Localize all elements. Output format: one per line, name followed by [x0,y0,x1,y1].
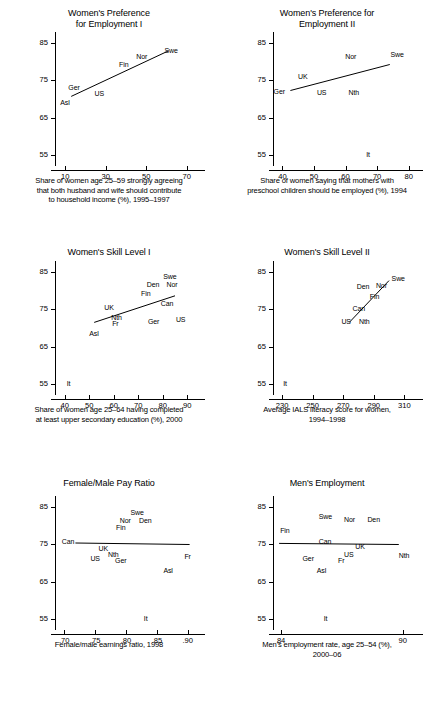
data-point-label: US [341,318,351,326]
data-point-label: Ger [274,88,285,96]
x-axis-label-line1: Men's employment rate, age 25–54 (%), [262,640,391,649]
data-point-label: Can [161,300,174,308]
data-point-label: It [144,615,148,623]
data-point-label: US [90,555,100,563]
data-point-label: Ger [303,555,314,563]
data-point-label: Fin [370,293,379,301]
chart-panel-2: Women's Skill Level IWomen's employment … [0,233,218,466]
data-point-label: UK [104,304,114,312]
data-point-label: Nor [344,516,355,524]
data-point-label: Fin [119,61,128,69]
x-axis-label: Men's employment rate, age 25–54 (%),200… [218,640,436,659]
data-point-label: Nor [167,281,178,289]
x-axis-label: Share of women saying that mothers withp… [218,176,436,195]
data-point-label: Nor [345,53,356,61]
data-point-label: Can [319,538,332,546]
data-point-label: Ger [68,84,79,92]
data-point-label: US [317,89,327,97]
x-axis-label-line1: Share of women saying that mothers with [260,176,393,185]
fit-line [218,233,436,411]
x-axis-label-line1: Female/male earnings ratio, 1998 [55,640,163,649]
data-point-label: Den [139,517,152,525]
chart-panel-1: Women's Preference forEmployment IIWomen… [218,0,436,233]
data-point-label: US [344,551,354,559]
chart-panel-3: Women's Skill Level IIWomen's employment… [218,233,436,466]
data-point-label: It [366,151,370,159]
data-point-label: Fin [280,527,289,535]
data-point-label: It [67,380,71,388]
data-point-label: Nth [359,318,370,326]
data-point-label: Asl [163,567,172,575]
data-point-label: UK [99,545,109,553]
x-axis-label-line2: 2000–06 [313,650,342,659]
fit-line [218,0,436,182]
x-axis-label: Female/male earnings ratio, 1998 [0,640,218,650]
x-axis-label-line2: 1994–1998 [309,415,346,424]
x-axis-label-line1: Share of women age 25–59 strongly agreei… [35,176,182,185]
data-point-label: It [283,380,287,388]
x-axis-label-line2: at least upper secondary education (%), … [36,415,183,424]
data-point-label: Asl [60,99,69,107]
data-point-label: Asl [89,330,98,338]
data-point-label: Fr [184,553,190,561]
data-point-label: Can [62,538,75,546]
x-axis-label-line2: that both husband and wife should contri… [37,186,182,195]
data-point-label: Nor [120,517,131,525]
chart-panel-5: Men's EmploymentWomen's employment rate,… [218,466,436,702]
x-axis-label: Share of women age 25–59 strongly agreei… [0,176,218,205]
data-point-label: Swe [163,273,176,281]
data-point-label: Fr [112,320,118,328]
data-point-label: Fin [141,290,150,298]
data-point-label: UK [298,73,308,81]
data-point-label: Asl [317,567,326,575]
x-axis-label: Share of women age 25–64 having complete… [0,405,218,424]
figure-panel-grid: Women's Preferencefor Employment IWomen'… [0,0,436,702]
data-point-label: Swe [392,275,405,283]
data-point-label: Can [353,305,366,313]
data-point-label: Den [367,516,380,524]
data-point-label: UK [355,543,365,551]
x-axis-label-line1: Share of women age 25–64 having complete… [35,405,184,414]
data-point-label: Nor [136,53,147,61]
data-point-label: It [324,615,328,623]
data-point-label: Swe [319,513,332,521]
fit-line [0,0,218,182]
x-axis-label-line1: Average IALS literacy score for women, [263,405,391,414]
data-point-label: Swe [391,51,404,59]
data-point-label: Nth [399,552,410,560]
data-point-label: US [95,90,105,98]
data-point-label: US [176,316,186,324]
data-point-label: Fin [116,524,125,532]
data-point-label: Nor [376,282,387,290]
data-point-label: Ger [115,557,126,565]
data-point-label: Nth [349,89,360,97]
x-axis-label-line2: preschool children should be employed (%… [247,186,407,195]
x-axis-label: Average IALS literacy score for women,19… [218,405,436,424]
data-point-label: Swe [165,47,178,55]
chart-panel-4: Female/Male Pay RatioWomen's employment … [0,466,218,702]
data-point-label: Swe [130,509,143,517]
data-point-label: Ger [148,318,159,326]
data-point-label: Den [357,283,370,291]
data-point-label: Den [147,281,160,289]
x-axis-label-line3: to household income (%), 1995–1997 [48,195,169,204]
chart-panel-0: Women's Preferencefor Employment IWomen'… [0,0,218,233]
